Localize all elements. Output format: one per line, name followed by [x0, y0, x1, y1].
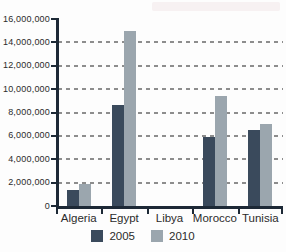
y-tick	[51, 65, 56, 67]
gridline	[58, 112, 283, 114]
y-axis-line	[56, 18, 59, 209]
legend-label-2005: 2005	[109, 230, 135, 242]
y-tick	[51, 205, 56, 207]
bar-2010-morocco	[215, 96, 227, 206]
bar-2005-algeria	[67, 190, 79, 206]
x-axis-label-morocco: Morocco	[189, 212, 241, 224]
bar-2010-egypt	[124, 31, 136, 206]
bar-2005-egypt	[112, 105, 124, 206]
legend-item-2005: 2005	[91, 230, 135, 242]
y-tick	[51, 18, 56, 20]
y-tick-label: 6,000,000	[0, 131, 50, 140]
plot-area: 02,000,0004,000,0006,000,0008,000,00010,…	[0, 0, 286, 252]
x-axis-label-tunisia: Tunisia	[234, 212, 286, 224]
bar-2005-morocco	[203, 137, 215, 206]
y-tick-label: 14,000,000	[0, 38, 50, 47]
bar-2010-tunisia	[260, 124, 272, 206]
y-tick-label: 10,000,000	[0, 85, 50, 94]
x-axis-label-libya: Libya	[144, 212, 196, 224]
y-tick	[51, 112, 56, 114]
y-tick	[51, 158, 56, 160]
x-axis-line	[56, 206, 283, 209]
y-tick-label: 8,000,000	[0, 108, 50, 117]
gridline	[58, 65, 283, 67]
y-tick	[51, 182, 56, 184]
y-tick-label: 4,000,000	[0, 155, 50, 164]
y-tick	[51, 88, 56, 90]
bar-chart-figure: 02,000,0004,000,0006,000,0008,000,00010,…	[0, 0, 286, 252]
y-tick-label: 2,000,000	[0, 178, 50, 187]
gridline	[58, 41, 283, 43]
legend-swatch-2010	[151, 230, 163, 242]
y-tick-label: 12,000,000	[0, 61, 50, 70]
y-tick-label: 0	[0, 202, 50, 211]
y-tick	[51, 41, 56, 43]
x-axis-label-algeria: Algeria	[53, 212, 105, 224]
legend: 20052010	[0, 230, 286, 242]
y-tick	[51, 135, 56, 137]
x-axis-label-egypt: Egypt	[98, 212, 150, 224]
bar-2005-tunisia	[248, 130, 260, 206]
legend-swatch-2005	[91, 230, 103, 242]
gridline	[58, 88, 283, 90]
legend-item-2010: 2010	[151, 230, 195, 242]
bar-2010-algeria	[79, 184, 91, 206]
legend-label-2010: 2010	[169, 230, 195, 242]
y-tick-label: 16,000,000	[0, 15, 50, 24]
